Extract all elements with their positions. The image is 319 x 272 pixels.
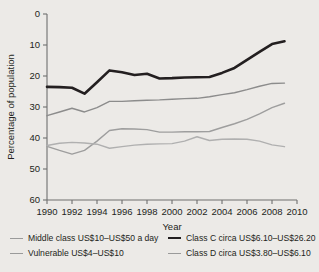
y-tick-label: 0 (35, 8, 40, 19)
chart-legend: Middle class US$10–US$50 a day Vulnerabl… (0, 229, 319, 272)
legend-item-vulnerable: Vulnerable US$4–US$10 (10, 246, 124, 260)
legend-swatch-icon (168, 253, 181, 254)
legend-item-class-c: Class C circa US$6.10–US$26.20 (168, 231, 315, 245)
legend-swatch-icon (10, 253, 23, 254)
x-tick-label: 2000 (161, 206, 182, 217)
series-line (47, 83, 285, 116)
legend-item-label: Vulnerable US$4–US$10 (28, 248, 124, 258)
x-tick-label: 1996 (111, 206, 132, 217)
legend-item-label: Class D circa US$3.80–US$6.10 (186, 248, 311, 258)
x-tick-label: 2010 (286, 206, 307, 217)
x-tick-label: 1998 (136, 206, 157, 217)
y-tick-label: 30 (29, 101, 40, 112)
y-axis-title: Percentage of population (5, 54, 16, 160)
x-tick-label: 1992 (61, 206, 82, 217)
y-tick-label: 10 (29, 39, 40, 50)
legend-item-middle-class: Middle class US$10–US$50 a day (10, 231, 158, 245)
line-chart: 6050403020100199019921994199619982000200… (0, 0, 319, 232)
plot-area: 6050403020100199019921994199619982000200… (0, 0, 319, 232)
x-tick-label: 2002 (186, 206, 207, 217)
chart-figure: 6050403020100199019921994199619982000200… (0, 0, 319, 272)
y-tick-label: 20 (29, 70, 40, 81)
series-line (47, 137, 285, 148)
y-tick-label: 60 (29, 194, 40, 205)
legend-item-class-d: Class D circa US$3.80–US$6.10 (168, 246, 311, 260)
y-tick-label: 50 (29, 163, 40, 174)
legend-swatch-icon (10, 238, 23, 239)
legend-item-label: Middle class US$10–US$50 a day (28, 233, 158, 243)
x-tick-label: 2006 (236, 206, 257, 217)
x-tick-label: 1990 (36, 206, 57, 217)
legend-swatch-icon (168, 237, 181, 239)
x-tick-label: 1994 (86, 206, 107, 217)
x-tick-label: 2004 (211, 206, 232, 217)
x-tick-label: 2008 (261, 206, 282, 217)
series-line (47, 41, 285, 93)
y-tick-label: 40 (29, 132, 40, 143)
legend-item-label: Class C circa US$6.10–US$26.20 (186, 233, 315, 243)
